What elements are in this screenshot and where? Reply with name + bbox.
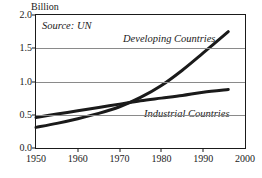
x-tick-label: 1950 — [26, 153, 46, 164]
series-label-developing-countries: Developing Countries — [123, 33, 215, 45]
x-tick-label: 1960 — [68, 153, 88, 164]
x-tick-label: 1970 — [110, 153, 130, 164]
x-tick-label: 1980 — [151, 153, 171, 164]
y-tick-label: 1.5 — [20, 43, 37, 53]
x-tick-mark — [77, 148, 78, 152]
x-tick-mark — [161, 148, 162, 152]
y-tick-label: 2.0 — [20, 10, 37, 20]
x-tick-mark — [203, 148, 204, 152]
plot-area: Source: UN Developing Countries Industri… — [35, 14, 246, 149]
gridline — [36, 82, 245, 83]
y-tick-label: 0.5 — [20, 110, 37, 120]
x-tick-mark — [119, 148, 120, 152]
source-annotation: Source: UN — [42, 20, 91, 32]
y-tick-label: 1.0 — [20, 77, 37, 87]
x-tick-label: 1990 — [193, 153, 213, 164]
y-tick-label: 0.0 — [20, 143, 37, 153]
gridline — [36, 48, 245, 49]
population-line-chart: Billion Source: UN Developing Countries … — [0, 0, 262, 178]
x-tick-label: 2000 — [235, 153, 255, 164]
gridline — [36, 115, 245, 116]
